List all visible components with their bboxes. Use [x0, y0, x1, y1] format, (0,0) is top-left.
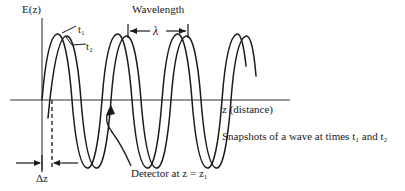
- delta-z-arrowhead-left: [34, 160, 41, 166]
- lambda-symbol: λ: [153, 25, 158, 37]
- delta-z-arrowhead-right: [53, 160, 60, 166]
- figure-canvas: [0, 0, 405, 191]
- wavelength-arrowhead-right: [179, 28, 186, 34]
- curve-label-t2: t₂: [86, 41, 93, 52]
- detector-arrowhead: [106, 105, 115, 116]
- wave-curve-t1: [42, 34, 246, 168]
- wavelength-arrowhead-left: [130, 28, 137, 34]
- y-axis-label: E(z): [22, 4, 41, 15]
- x-axis-label: z (distance): [222, 104, 273, 115]
- delta-z-label: Δz: [36, 173, 48, 184]
- detector-label: Detector at z = z₁: [131, 168, 208, 179]
- leader-line-t2: [72, 44, 86, 45]
- figure-caption: Snapshots of a wave at times t₁ and t₂: [222, 131, 387, 142]
- wavelength-title: Wavelength: [132, 4, 184, 15]
- curve-label-t1: t₁: [78, 24, 85, 35]
- leader-line-t1: [62, 26, 76, 33]
- wave-snapshot-figure: E(z) t₁ t₂ Wavelength λ z (distance) Sna…: [0, 0, 405, 191]
- wave-curve-t2: [48, 36, 256, 168]
